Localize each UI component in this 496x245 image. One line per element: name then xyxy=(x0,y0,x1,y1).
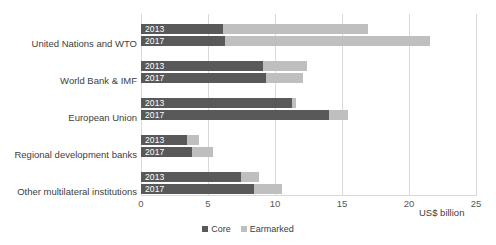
bar-segment-core[interactable] xyxy=(141,36,225,46)
gridline-25 xyxy=(476,14,477,195)
bar-segment-core[interactable] xyxy=(141,73,266,83)
x-tick-0: 0 xyxy=(138,198,143,209)
x-tick-5: 5 xyxy=(205,198,210,209)
category-label-regional-development-banks: Regional development banks xyxy=(0,149,137,160)
bar-segment-earmarked[interactable] xyxy=(292,98,296,108)
bar-segment-earmarked[interactable] xyxy=(266,73,303,83)
bar-chart: United Nations and WTO 2013 2017 World B… xyxy=(0,0,496,245)
legend-swatch-earmarked-icon xyxy=(241,226,247,232)
bar-segment-earmarked[interactable] xyxy=(223,24,368,34)
bar-segment-core[interactable] xyxy=(141,147,192,157)
category-label-world-bank-and-imf: World Bank & IMF xyxy=(0,75,137,86)
bar-segment-core[interactable] xyxy=(141,172,241,182)
bar-segment-earmarked[interactable] xyxy=(254,184,282,194)
bar-segment-core[interactable] xyxy=(141,184,254,194)
legend-swatch-core-icon xyxy=(202,226,208,232)
x-tick-10: 10 xyxy=(270,198,281,209)
chart-legend: Core Earmarked xyxy=(0,224,496,234)
x-axis-title: US$ billion xyxy=(419,207,464,218)
bar-segment-earmarked[interactable] xyxy=(263,61,307,71)
bar-segment-core[interactable] xyxy=(141,110,329,120)
legend-label-core: Core xyxy=(211,224,231,234)
x-tick-25: 25 xyxy=(471,198,482,209)
legend-label-earmarked: Earmarked xyxy=(250,224,294,234)
x-tick-20: 20 xyxy=(404,198,415,209)
category-label-united-nations-and-wto: United Nations and WTO xyxy=(0,38,137,49)
category-label-european-union: European Union xyxy=(0,112,137,123)
bar-segment-earmarked[interactable] xyxy=(187,135,199,145)
bar-segment-earmarked[interactable] xyxy=(225,36,430,46)
x-axis-line xyxy=(141,195,477,196)
bar-segment-core[interactable] xyxy=(141,135,187,145)
bar-segment-earmarked[interactable] xyxy=(192,147,213,157)
bar-segment-core[interactable] xyxy=(141,24,223,34)
bar-segment-core[interactable] xyxy=(141,98,292,108)
category-label-other-multilateral-institutions: Other multilateral institutions xyxy=(0,186,137,197)
x-tick-15: 15 xyxy=(337,198,348,209)
bar-segment-earmarked[interactable] xyxy=(241,172,259,182)
legend-item-earmarked[interactable]: Earmarked xyxy=(241,224,294,234)
bar-segment-core[interactable] xyxy=(141,61,263,71)
legend-item-core[interactable]: Core xyxy=(202,224,231,234)
bar-segment-earmarked[interactable] xyxy=(329,110,348,120)
